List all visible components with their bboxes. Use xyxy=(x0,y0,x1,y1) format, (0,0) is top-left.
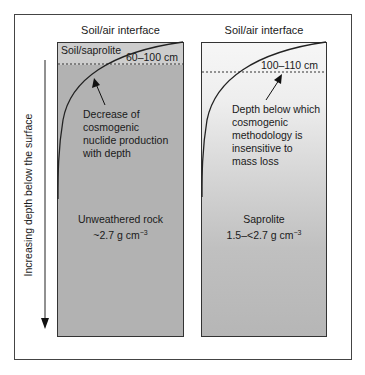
soil-saprolite-label: Soil/saprolite xyxy=(61,44,121,57)
unweathered-rock-panel xyxy=(57,42,184,337)
right-material-label: Saprolite 1.5–<2.7 g cm−3 xyxy=(201,213,327,242)
right-depth-label: 100–110 cm xyxy=(261,59,318,72)
left-annotation: Decrease of cosmogenic nuclide productio… xyxy=(83,108,168,160)
left-material-label: Unweathered rock ~2.7 g cm−3 xyxy=(57,213,184,242)
left-depth-label: 60–100 cm xyxy=(126,51,178,64)
right-panel-header: Soil/air interface xyxy=(201,24,327,36)
saprolite-panel xyxy=(201,42,327,337)
depth-axis-label: Increasing depth below the surface xyxy=(22,114,34,277)
left-panel-header: Soil/air interface xyxy=(57,24,184,36)
right-annotation: Depth below which cosmogenic methodology… xyxy=(232,103,320,168)
